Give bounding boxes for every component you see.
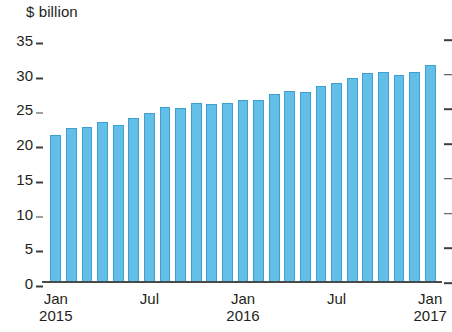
x-axis-label-jan-2016: Jan2016 [226, 290, 259, 325]
bar [128, 118, 139, 283]
x-axis-year-label: 2017 [414, 307, 447, 325]
bar [206, 104, 217, 283]
bar [253, 100, 264, 283]
y-axis-tick-label: 5 [25, 241, 36, 256]
y-axis-tick-10: 10 [16, 206, 48, 221]
y-axis-tick-label: 30 [16, 67, 36, 82]
bar-series [48, 40, 438, 283]
y-axis-tick-mark [36, 43, 43, 45]
x-axis-year-label: 2016 [226, 307, 259, 325]
x-axis-label-jan-2015: Jan2015 [39, 290, 72, 325]
y-axis-tick-mark-right-10 [444, 213, 452, 215]
bar [144, 113, 155, 283]
y-axis-tick-mark [36, 182, 43, 184]
y-axis-tick-mark-right-30 [444, 74, 452, 76]
y-axis-tick-5: 5 [25, 241, 48, 256]
y-axis-tick-label: 10 [16, 206, 36, 221]
bar [316, 86, 327, 283]
x-axis-month-label: Jan [226, 290, 259, 307]
bar [409, 72, 420, 283]
y-axis-tick-mark [36, 251, 43, 253]
y-axis-tick-25: 25 [16, 102, 48, 117]
y-axis-tick-label: 25 [16, 102, 36, 117]
x-axis-month-label: Jul [140, 290, 159, 307]
bar [82, 127, 93, 283]
x-axis-label-jan-2017: Jan2017 [414, 290, 447, 325]
bar [191, 103, 202, 284]
x-axis-month-label: Jan [39, 290, 72, 307]
y-axis-tick-label: 15 [16, 171, 36, 186]
bar [222, 103, 233, 283]
y-axis-tick-mark-right-0 [444, 282, 452, 284]
bar [300, 92, 311, 283]
y-axis-tick-mark-right-20 [444, 143, 452, 145]
bar [362, 73, 373, 283]
x-axis-line [42, 281, 442, 283]
y-axis-tick-label: 20 [16, 137, 36, 152]
x-axis-label-jul: Jul [327, 290, 346, 307]
bar [66, 128, 77, 283]
y-axis-tick-mark [36, 286, 43, 288]
x-axis-month-label: Jan [414, 290, 447, 307]
x-axis-month-label: Jul [327, 290, 346, 307]
x-axis-label-jul: Jul [140, 290, 159, 307]
bar [394, 75, 405, 283]
bar [347, 78, 358, 283]
bar [175, 108, 186, 283]
bar [97, 122, 108, 283]
y-axis-tick-35: 35 [16, 33, 48, 48]
bar [284, 91, 295, 283]
bar [331, 83, 342, 283]
y-axis-tick-mark [36, 112, 43, 114]
y-axis-tick-label: 0 [25, 276, 36, 291]
plot-area: 35302520151050 [48, 40, 438, 283]
y-axis-tick-mark [36, 77, 43, 79]
bar [113, 125, 124, 283]
bar [238, 100, 249, 283]
y-axis-tick-mark-right-5 [444, 247, 452, 249]
y-axis-tick-mark [36, 216, 43, 218]
y-axis-tick-20: 20 [16, 137, 48, 152]
y-axis-tick-30: 30 [16, 67, 48, 82]
y-axis-tick-mark-right-15 [444, 178, 452, 180]
bar [378, 72, 389, 283]
y-axis-tick-0: 0 [25, 276, 48, 291]
bar [50, 135, 61, 283]
y-axis-tick-15: 15 [16, 171, 48, 186]
x-axis-year-label: 2015 [39, 307, 72, 325]
y-axis-tick-mark-right-25 [444, 109, 452, 111]
y-axis-title: $ billion [26, 3, 78, 20]
bar [425, 65, 436, 283]
bar [160, 107, 171, 283]
bar [269, 94, 280, 283]
y-axis-tick-mark [36, 147, 43, 149]
y-axis-tick-mark-right-35 [444, 39, 452, 41]
y-axis-tick-label: 35 [16, 33, 36, 48]
